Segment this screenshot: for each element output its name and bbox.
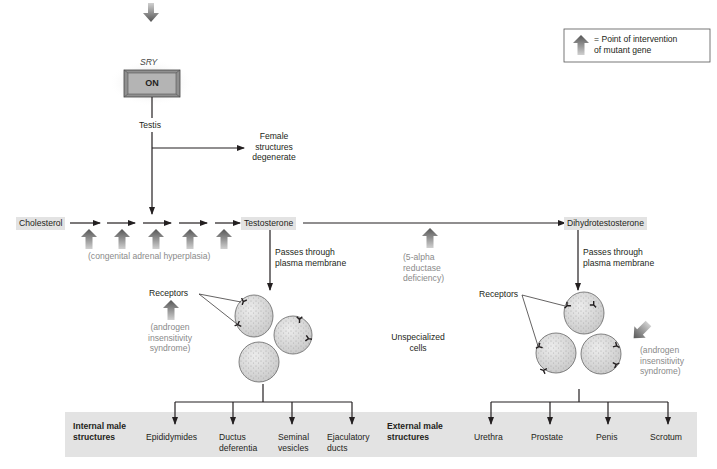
membrane-label-left: Passes through plasma membrane	[275, 247, 346, 268]
receptors-label-right: Receptors	[479, 289, 518, 300]
on-switch-label: ON	[124, 78, 180, 89]
testosterone-label: Testosterone	[241, 217, 296, 230]
legend: = Point of intervention of mutant gene	[594, 34, 677, 55]
external-item-penis: Penis	[596, 432, 618, 443]
legend-label-line1: = Point of intervention	[594, 34, 677, 45]
diagram-graphics	[0, 0, 717, 469]
internal-item-ductus-deferentia: Ductus deferentia	[219, 432, 257, 453]
internal-item-seminal-vesicles: Seminal vesicles	[278, 432, 309, 453]
external-structures-heading: External male structures	[387, 421, 443, 442]
female-structures-label: Female structures degenerate	[246, 131, 302, 163]
right-cell-cluster	[534, 292, 621, 374]
external-item-scrotum: Scrotum	[650, 432, 682, 443]
sry-input-arrow-icon	[143, 3, 159, 22]
dihydrotestosterone-label: Dihydrotestosterone	[564, 217, 647, 230]
internal-item-ejaculatory-ducts: Ejaculatory ducts	[327, 432, 370, 453]
external-item-urethra: Urethra	[474, 432, 503, 443]
internal-item-epididymides: Epididymides	[146, 432, 197, 443]
receptors-label-left: Receptors	[149, 288, 188, 299]
gene-name: SRY	[140, 57, 157, 68]
testis-label: Testis	[139, 120, 161, 131]
five-alpha-reductase-defect-label: (5-alpha reductase deficiency)	[403, 252, 444, 284]
ais-defect-label-right: (androgen insensitivity syndrome)	[640, 345, 684, 377]
ais-defect-label-left: (androgen insensitivity syndrome)	[140, 322, 200, 354]
cholesterol-label: Cholesterol	[16, 217, 65, 230]
internal-structures-heading: Internal male structures	[73, 421, 126, 442]
cah-defect-label: (congenital adrenal hyperplasia)	[88, 251, 210, 262]
membrane-label-right: Passes through plasma membrane	[583, 247, 654, 268]
left-cell-cluster	[233, 295, 312, 382]
legend-label-line2: of mutant gene	[594, 45, 677, 56]
unspecialized-cells-label: Unspecialized cells	[383, 332, 453, 353]
external-item-prostate: Prostate	[531, 432, 563, 443]
